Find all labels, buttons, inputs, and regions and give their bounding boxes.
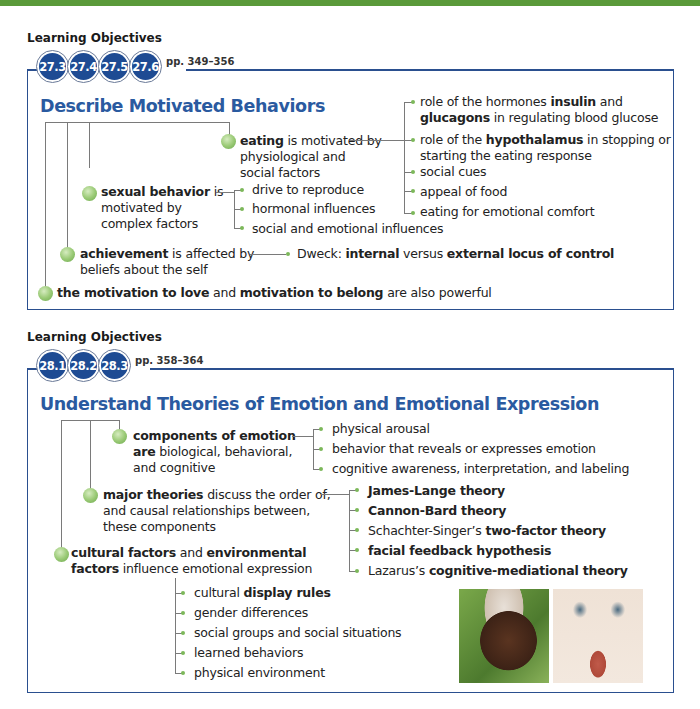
objective-badge[interactable]: 27.6 <box>129 50 162 83</box>
bullet-dot <box>112 429 127 444</box>
sexual-child: hormonal influences <box>252 201 375 217</box>
cultural-child: learned behaviors <box>194 645 303 661</box>
section1-top-border <box>186 69 674 71</box>
sub-bullet <box>181 591 185 595</box>
sub-bullet <box>319 447 323 451</box>
bullet-dot <box>54 547 69 562</box>
objective-badge[interactable]: 27.4 <box>67 50 100 83</box>
connector <box>89 122 90 168</box>
eating-child: appeal of food <box>420 184 507 200</box>
objective-badges-2: 28.1 28.2 28.3 pp. 358–364 <box>36 349 203 382</box>
theory-item: facial feedback hypothesis <box>368 543 551 559</box>
bullet-dot <box>221 134 236 149</box>
sub-bullet <box>181 611 185 615</box>
eating-child: social cues <box>420 164 486 180</box>
theories-text: major theories discuss the order of, <box>103 487 330 503</box>
theory-item: Cannon-Bard theory <box>368 503 506 519</box>
sub-bullet <box>411 211 415 215</box>
learning-objectives-label: Learning Objectives <box>27 31 162 45</box>
connector <box>67 122 68 250</box>
theory-item: Lazarus’s cognitive-mediational theory <box>368 563 628 579</box>
objective-badge[interactable]: 27.3 <box>36 50 69 83</box>
theories-text-line2: and causal relationships between, <box>103 503 310 519</box>
eating-child: role of the hormones insulin and <box>420 94 623 110</box>
eating-child: eating for emotional comfort <box>420 204 594 220</box>
photo-smiling-woman-headdress <box>459 589 549 683</box>
components-child: behavior that reveals or expresses emoti… <box>332 441 596 457</box>
achievement-text-line2: beliefs about the self <box>80 262 207 278</box>
sub-bullet <box>411 100 415 104</box>
page-range: pp. 358–364 <box>135 355 203 366</box>
cultural-child: social groups and social situations <box>194 625 401 641</box>
theory-item: James-Lange theory <box>368 483 505 499</box>
sub-bullet <box>411 138 415 142</box>
sub-bullet <box>286 252 290 256</box>
components-child: cognitive awareness, interpretation, and… <box>332 461 629 477</box>
eating-text: eating is motivated by <box>240 133 382 149</box>
eating-text-line2: physiological and <box>240 149 346 165</box>
section2-heading: Understand Theories of Emotion and Emoti… <box>40 394 599 414</box>
eating-child: role of the hypothalamus in stopping or <box>420 132 671 148</box>
sub-bullet <box>240 188 244 192</box>
section1-heading: Describe Motivated Behaviors <box>40 96 325 116</box>
bullet-dot <box>60 247 75 262</box>
theory-item: Schachter-Singer’s two-factor theory <box>368 523 606 539</box>
objective-badges-1: 27.3 27.4 27.5 27.6 pp. 349–356 <box>36 50 234 83</box>
theories-text-line3: these components <box>103 519 216 535</box>
love-text: the motivation to love and motivation to… <box>57 285 492 301</box>
connector <box>321 494 349 495</box>
sexual-text: sexual behavior is <box>101 184 223 200</box>
sub-bullet <box>355 569 359 573</box>
eating-child: starting the eating response <box>420 148 592 164</box>
cultural-text-line2: factors influence emotional expression <box>71 561 312 577</box>
connector <box>404 102 405 214</box>
sub-bullet <box>355 548 359 552</box>
cultural-child: physical environment <box>194 665 325 681</box>
sub-bullet <box>355 488 359 492</box>
connector <box>216 192 234 193</box>
objective-badge[interactable]: 28.2 <box>67 349 100 382</box>
components-text-line2: are biological, behavioral, <box>133 444 292 460</box>
connector <box>383 140 412 141</box>
sub-bullet <box>240 226 244 230</box>
connector <box>292 436 313 437</box>
bullet-dot <box>82 186 97 201</box>
connector <box>61 420 62 550</box>
components-text: components of emotion <box>133 428 296 444</box>
components-child: physical arousal <box>332 421 430 437</box>
bullet-dot <box>83 488 98 503</box>
photo-disgusted-face <box>553 589 643 683</box>
eating-child: glucagons in regulating blood glucose <box>420 110 658 126</box>
cultural-child: gender differences <box>194 605 308 621</box>
objective-badge[interactable]: 28.1 <box>36 349 69 382</box>
sub-bullet <box>355 528 359 532</box>
achievement-child: Dweck: internal versus external locus of… <box>297 246 614 262</box>
section2-top-border <box>150 368 674 370</box>
sexual-text-line3: complex factors <box>101 216 198 232</box>
sub-bullet <box>181 671 185 675</box>
bullet-dot <box>38 286 53 301</box>
sub-bullet <box>319 467 323 471</box>
top-color-bar <box>0 0 700 6</box>
learning-objectives-label: Learning Objectives <box>27 330 162 344</box>
sub-bullet <box>240 207 244 211</box>
achievement-text: achievement is affected by <box>80 246 254 262</box>
components-text-line3: and cognitive <box>133 460 215 476</box>
sub-bullet <box>181 651 185 655</box>
connector <box>250 254 286 255</box>
sexual-text-line2: motivated by <box>101 200 182 216</box>
cultural-child: cultural display rules <box>194 585 331 601</box>
cultural-text: cultural factors and environmental <box>71 545 306 561</box>
eating-text-line3: social factors <box>240 165 320 181</box>
connector <box>45 122 229 123</box>
sub-bullet <box>411 170 415 174</box>
page-range: pp. 349–356 <box>166 56 234 67</box>
sub-bullet <box>411 189 415 193</box>
sub-bullet <box>355 508 359 512</box>
objective-badge[interactable]: 27.5 <box>98 50 131 83</box>
sexual-child: social and emotional influences <box>252 221 443 237</box>
connector <box>45 122 46 292</box>
objective-badge[interactable]: 28.3 <box>98 349 131 382</box>
sub-bullet <box>319 427 323 431</box>
connector <box>350 140 383 141</box>
